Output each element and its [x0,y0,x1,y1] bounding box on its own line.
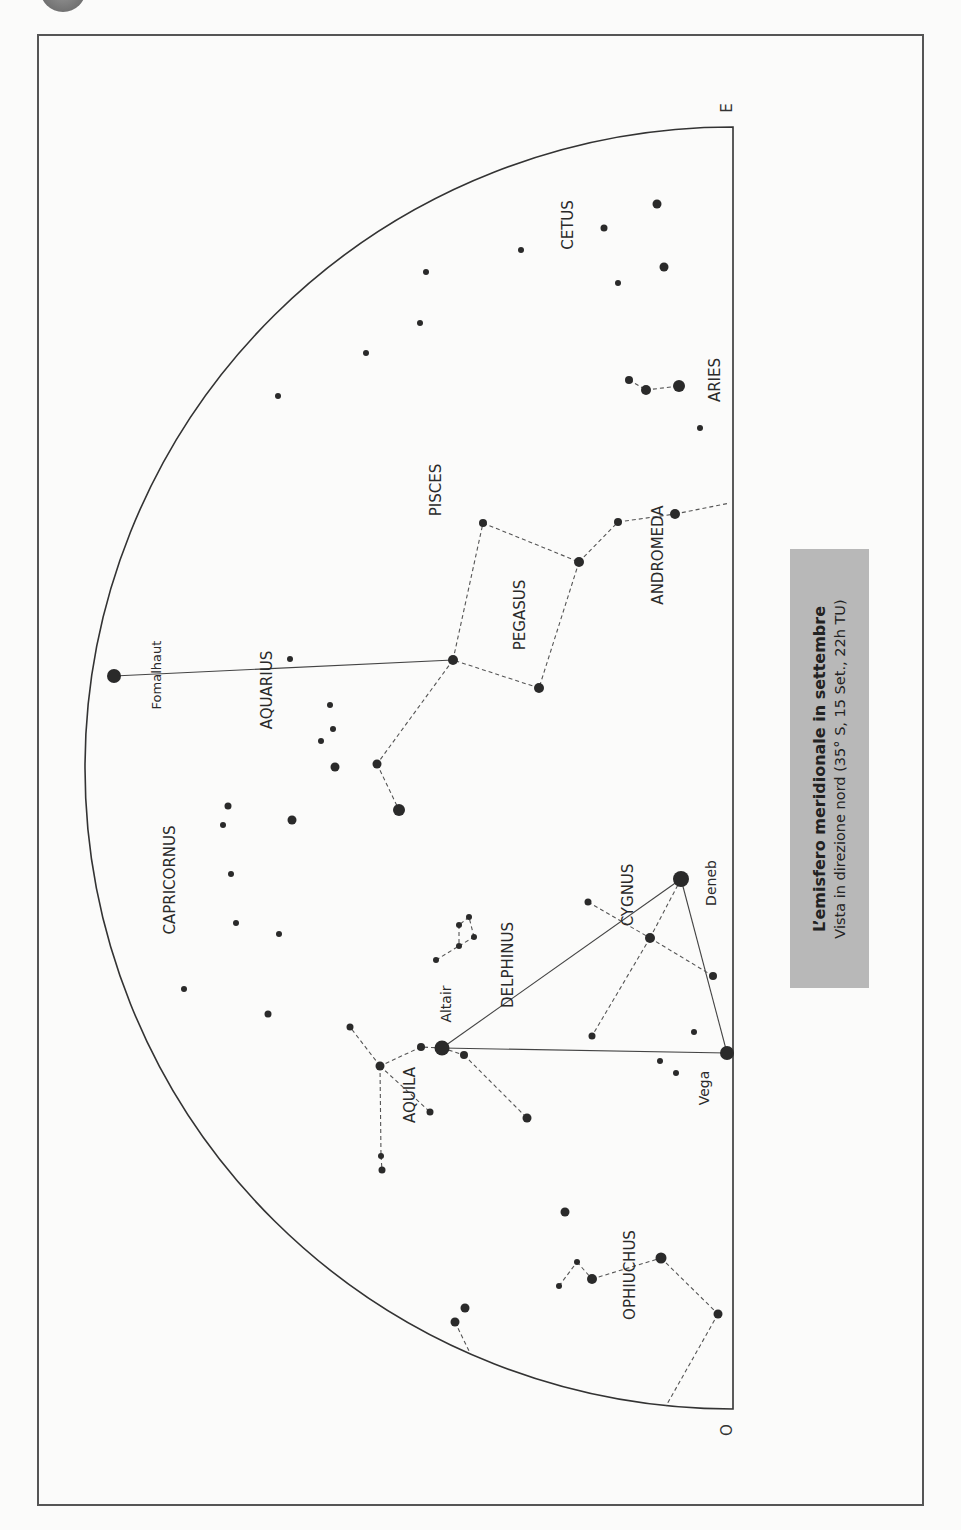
star-dot [330,726,336,732]
star-dot [456,943,462,949]
legend-title: L’emisfero meridionale in settembre [810,549,830,988]
star-dot [379,1167,386,1174]
constellation-label: DELPHINUS [499,922,517,1008]
horizon-semicircle [85,127,733,1409]
star-dot [181,986,187,992]
star-dot [660,263,669,272]
star-dot [460,1051,468,1059]
star-dot [574,1259,580,1265]
star-dot [363,350,369,356]
star-dot [461,1304,470,1313]
legend-box: L’emisfero meridionale in settembre Vist… [790,549,869,988]
constellation-label: ARIES [706,358,724,402]
star-dot [656,1253,667,1264]
star-dot [233,920,239,926]
star-dot [427,1109,434,1116]
labels: CETUSARIESPISCESANDROMEDAPEGASUSAQUARIUS… [149,103,736,1436]
star-dot [288,816,297,825]
constellation-line [436,946,459,960]
constellation-line [650,938,713,976]
constellation-label: PISCES [427,464,445,516]
constellation-line [380,1066,381,1156]
constellation-line [661,1258,718,1314]
constellation-line [666,1314,718,1406]
star-dot [614,518,622,526]
constellation-line [469,917,474,937]
star-dot [518,247,524,253]
constellation-line [377,764,399,810]
star-dot [585,899,592,906]
star-dot [657,1058,663,1064]
constellation-label: CYGNUS [619,864,637,927]
constellation-line [650,879,681,938]
star-dot [265,1011,272,1018]
star-name-label: Altair [438,985,454,1022]
star-dot [615,280,621,286]
star-dot [561,1208,570,1217]
constellation-line [453,523,483,660]
constellation-label: PEGASUS [511,580,529,650]
star-dot [601,225,608,232]
constellation-line [579,522,618,562]
constellation-label: AQUARIUS [258,651,276,729]
star-dot [673,380,685,392]
constellation-line [592,938,650,1036]
star-dot [417,320,423,326]
star-dot [673,1070,679,1076]
constellation-label: CETUS [559,200,577,250]
asterism-line [442,1048,727,1053]
constellation-label: OPHIUCHUS [621,1230,639,1320]
star-dot [479,519,487,527]
star-dot [220,822,226,828]
constellation-line [350,1027,380,1066]
star-dot [466,914,472,920]
star-name-label: Vega [696,1071,712,1106]
constellation-line [464,1055,527,1118]
star-dot [393,804,405,816]
constellation-line [559,1262,577,1286]
star-dot [107,669,121,683]
star-dot [534,683,544,693]
star-name-label: Fomalhaut [149,641,164,710]
star-dot [456,922,462,928]
star-dot [373,760,382,769]
star-dot [318,738,324,744]
star-dot [556,1283,562,1289]
star-dot [451,1318,460,1327]
star-dot [653,200,662,209]
constellation-label: ANDROMEDA [649,505,667,605]
star-name-label: Deneb [703,860,719,906]
star-dot [645,933,655,943]
star-dot [275,393,281,399]
constellation-line [483,523,579,562]
constellation-line [539,562,579,688]
legend-subtitle: Vista in direzione nord (35° S, 15 Set.,… [830,549,850,988]
star-dot [697,425,703,431]
stars [107,200,734,1327]
horizon-arc [85,127,733,1409]
star-dot [574,557,584,567]
star-dot [471,934,477,940]
asterism-line [442,879,681,1048]
star-dot [423,269,429,275]
constellation-line [675,503,730,514]
star-dot [347,1024,354,1031]
star-dot [327,702,333,708]
constellation-line [377,660,453,764]
constellation-label: AQUILA [401,1066,419,1123]
constellation-label: CAPRICORNUS [161,825,179,934]
constellation-line [380,1047,421,1066]
star-dot [433,957,439,963]
constellation-line [453,660,539,688]
star-dot [378,1153,384,1159]
star-dot [625,376,633,384]
star-dot [228,871,234,877]
star-dot [720,1046,734,1060]
star-dot [587,1274,597,1284]
star-dot [331,763,340,772]
star-dot [417,1043,425,1051]
star-dot [435,1041,450,1056]
star-dot [523,1114,532,1123]
star-dot [673,871,689,887]
star-dot [670,509,680,519]
